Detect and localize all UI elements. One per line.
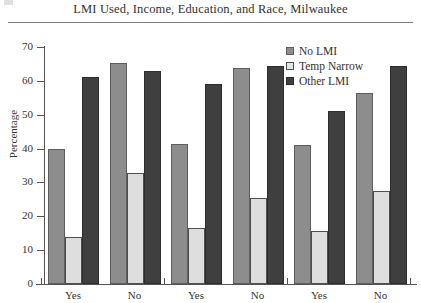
y-axis-title: Percentage xyxy=(7,79,19,189)
x-axis-group-label: No xyxy=(105,289,165,301)
page-title: LMI Used, Income, Education, and Race, M… xyxy=(0,2,421,17)
legend-item-label: No LMI xyxy=(299,45,337,57)
bar-group xyxy=(356,47,407,284)
bar xyxy=(188,228,205,284)
y-axis-tick-label: 70 xyxy=(7,40,33,52)
bar xyxy=(233,68,250,284)
x-axis-line xyxy=(36,284,417,285)
bar xyxy=(390,66,407,284)
legend-item-temp-narrow: Temp Narrow xyxy=(286,59,363,73)
bar xyxy=(48,149,65,284)
bar-group xyxy=(171,47,222,284)
bar xyxy=(356,93,373,284)
legend-item-label: Other LMI xyxy=(299,75,349,87)
legend-item-other-lmi: Other LMI xyxy=(286,74,363,88)
legend-swatch-icon xyxy=(286,47,294,55)
x-axis-group-label: Yes xyxy=(43,289,103,301)
x-axis-separator-tick xyxy=(164,278,165,285)
y-axis-tick xyxy=(37,47,44,48)
y-axis-tick xyxy=(37,216,44,217)
legend-swatch-icon xyxy=(286,77,294,85)
bar xyxy=(127,173,144,284)
y-axis-tick-label: 0 xyxy=(7,277,33,289)
y-axis-tick-label: 10 xyxy=(7,243,33,255)
x-axis-group-label: Yes xyxy=(166,289,226,301)
y-axis-tick xyxy=(37,182,44,183)
bar xyxy=(267,66,284,284)
bar-group xyxy=(233,47,284,284)
bar xyxy=(205,84,222,284)
y-axis-tick xyxy=(37,250,44,251)
bar-group xyxy=(48,47,99,284)
bar-group xyxy=(110,47,161,284)
bar xyxy=(328,111,345,284)
bar xyxy=(110,63,127,284)
x-axis-group-label: No xyxy=(228,289,288,301)
x-axis-separator-tick xyxy=(410,278,411,285)
bar xyxy=(171,144,188,285)
x-axis-group-label: No xyxy=(351,289,411,301)
bar xyxy=(144,71,161,284)
y-axis-tick xyxy=(37,115,44,116)
x-axis-separator-tick xyxy=(287,278,288,285)
x-axis-separator-tick xyxy=(41,278,42,285)
chart-legend: No LMI Temp Narrow Other LMI xyxy=(286,44,363,89)
y-axis-tick xyxy=(37,149,44,150)
x-axis-group-label: Yes xyxy=(289,289,349,301)
bar xyxy=(373,191,390,284)
y-axis-tick xyxy=(37,81,44,82)
bar xyxy=(250,198,267,284)
bar xyxy=(82,77,99,284)
legend-item-label: Temp Narrow xyxy=(299,60,363,72)
bar xyxy=(294,145,311,284)
y-axis-tick-label: 20 xyxy=(7,209,33,221)
legend-swatch-icon xyxy=(286,62,294,70)
legend-item-no-lmi: No LMI xyxy=(286,44,363,58)
bar xyxy=(65,237,82,284)
title-divider xyxy=(8,22,413,23)
bar xyxy=(311,231,328,284)
